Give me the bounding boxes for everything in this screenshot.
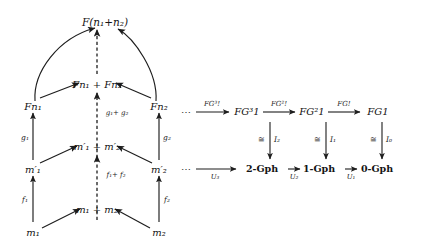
arrow-label-I0: I₀ [386,136,392,144]
node-m1-plus-m2: m₁ + m₂ [76,205,118,215]
arrow-m2-to-sum [115,209,150,228]
arrow-layer [0,0,429,248]
ellipsis-bottom-row: ⋯ [181,164,192,175]
node-1-Gph: 1-Gph [303,164,335,174]
node-2-Gph: 2-Gph [246,164,278,174]
node-m1: m₁ [26,228,40,238]
arrow-label-U3: U₃ [211,174,220,181]
arrow-label-I1: I₁ [330,136,336,144]
arrow-label-FG3-bang: FG³! [204,101,220,108]
arrow-label-U1: U₁ [347,174,356,181]
iso-symbol-I2: ≅ [258,136,265,144]
arrow-label-U2: U₂ [290,174,299,181]
node-m2prime: m′₂ [151,165,167,175]
node-Fn1: Fn₁ [24,102,41,112]
node-FG3-one: FG³1 [234,107,259,117]
node-m1prime: m′₁ [25,165,41,175]
figure-canvas: F(n₁+n₂) Fn₁ + Fn₂ Fn₁ Fn₂ m′₁ + m′₂ m′₁… [0,0,429,248]
node-Fn2: Fn₂ [150,102,167,112]
iso-symbol-I0: ≅ [370,136,377,144]
arrow-m1p-to-sum [40,146,77,163]
node-m1prime-plus-m2prime: m′₁ + m′₂ [74,142,120,152]
arrow-fn1-to-top [35,28,95,101]
arrow-label-g2: g₂ [163,134,171,142]
arrow-fn2-to-top [118,29,156,101]
ellipsis-top-row: ⋯ [181,107,192,118]
arrow-label-f1: f₁ [22,196,28,204]
iso-symbol-I1: ≅ [314,136,321,144]
arrow-label-g1: g₁ [21,134,29,142]
arrow-label-FG2-bang: FG²! [271,101,287,108]
node-m2: m₂ [152,228,166,238]
arrow-label-I2: I₂ [274,136,280,144]
arrow-m1-to-sum [42,209,80,228]
arrow-label-FG-bang: FG! [337,101,350,108]
node-FG-one: FG1 [367,107,388,117]
node-FG2-one: FG²1 [299,107,324,117]
node-F-of-n1-plus-n2: F(n₁+n₂) [82,17,128,28]
arrow-m2p-to-sum [117,146,152,163]
node-Fn1-plus-Fn2: Fn₁ + Fn₂ [72,80,122,90]
arrow-label-g1-plus-g2: g₁+ g₂ [106,110,129,117]
node-0-Gph: 0-Gph [361,164,393,174]
arrow-label-f1-plus-f2: f₁+ f₂ [107,172,126,179]
arrow-label-f2: f₂ [164,196,170,204]
